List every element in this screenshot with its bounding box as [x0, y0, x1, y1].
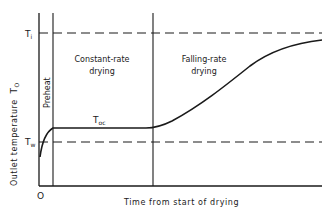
- inlet-temperature-label: Ti: [24, 29, 33, 40]
- constant-rate-label-line2: drying: [89, 67, 114, 76]
- constant-rate-label: Constant-rate: [74, 55, 129, 64]
- falling-rate-label: Falling-rate: [182, 55, 227, 64]
- origin-label: O: [37, 191, 44, 201]
- wet-bulb-temperature-label: Tw: [24, 137, 36, 148]
- x-axis-label: Time from start of drying: [123, 198, 239, 207]
- drying-curve-diagram: Ti Tw Toc O Outlet temperatureTO Preheat…: [0, 0, 333, 215]
- y-axis-label: Outlet temperatureTO: [9, 82, 20, 186]
- preheat-label: Preheat: [43, 77, 52, 108]
- constant-outlet-temperature-label: Toc: [92, 115, 105, 126]
- falling-rate-label-line2: drying: [191, 67, 216, 76]
